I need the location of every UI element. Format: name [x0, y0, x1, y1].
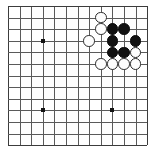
grid-line-horizontal-3 — [8, 41, 147, 42]
star-point-1 — [41, 108, 45, 112]
black-stone[interactable] — [118, 23, 130, 35]
black-stone[interactable] — [107, 47, 119, 59]
grid-line-vertical-12 — [147, 6, 148, 145]
go-board[interactable] — [0, 0, 153, 151]
star-point-2 — [110, 108, 114, 112]
grid-line-horizontal-8 — [8, 99, 147, 100]
black-stone[interactable] — [107, 35, 119, 47]
white-stone[interactable] — [95, 58, 107, 70]
grid-line-horizontal-11 — [8, 134, 147, 135]
black-stone[interactable] — [107, 23, 119, 35]
black-stone[interactable] — [118, 47, 130, 59]
white-stone[interactable] — [118, 58, 130, 70]
white-stone[interactable] — [83, 35, 95, 47]
white-stone[interactable] — [107, 58, 119, 70]
grid-line-horizontal-10 — [8, 122, 147, 123]
grid-line-horizontal-6 — [8, 76, 147, 77]
white-stone[interactable] — [95, 23, 107, 35]
go-board-container — [0, 0, 153, 151]
grid-line-horizontal-0 — [8, 6, 147, 7]
white-stone[interactable] — [95, 12, 107, 24]
grid-line-horizontal-7 — [8, 87, 147, 88]
grid-line-horizontal-12 — [8, 145, 147, 146]
black-stone[interactable] — [130, 35, 142, 47]
star-point-0 — [41, 39, 45, 43]
grid-line-horizontal-9 — [8, 110, 147, 111]
grid-line-horizontal-1 — [8, 18, 147, 19]
white-stone[interactable] — [130, 58, 142, 70]
white-stone[interactable] — [130, 47, 142, 59]
